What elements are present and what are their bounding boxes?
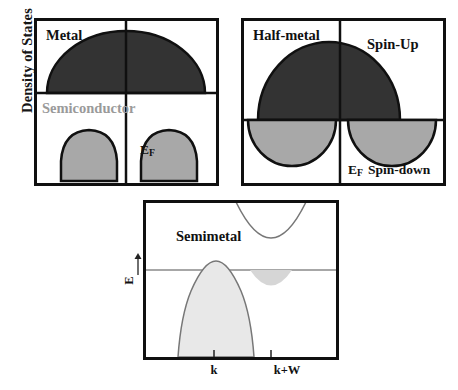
energy-axis-arrow-icon: [133, 252, 143, 276]
fermi-level-spin-down-label: EFSpin-down: [348, 163, 430, 177]
y-axis-title: Density of States: [19, 0, 36, 136]
half-metal-label: Half-metal: [253, 28, 320, 43]
semimetal-label: Semimetal: [176, 229, 241, 244]
metal-semiconductor-panel: Metal Semiconductor EF: [34, 18, 219, 186]
semiconductor-label: Semiconductor: [42, 101, 135, 116]
spin-down-dos-right: [348, 120, 436, 166]
x-tick-label-k-plus-w: k+W: [265, 363, 309, 378]
fermi-level-symbol: E: [140, 142, 149, 157]
semiconductor-valence-band-left: [61, 130, 117, 181]
semimetal-y-axis-label: E: [122, 276, 137, 284]
semimetal-panel: Semimetal: [143, 200, 339, 360]
metal-label: Metal: [46, 28, 82, 43]
conduction-band-overlap-fill: [250, 270, 292, 286]
half-metal-panel: Half-metal Spin-Up EFSpin-down: [241, 18, 446, 186]
fermi-level-label-left: EF: [140, 143, 155, 157]
fermi-level-subscript: F: [357, 167, 363, 178]
fermi-level-subscript: F: [149, 147, 155, 158]
spin-down-dos-left: [248, 120, 336, 166]
fermi-level-symbol: E: [348, 162, 357, 177]
valence-band-curve: [178, 261, 254, 357]
semimetal-band-plot: [146, 203, 336, 357]
x-tick-label-k: k: [202, 363, 226, 378]
spin-down-label: Spin-down: [368, 162, 430, 177]
figure-root: Density of States Metal Semiconductor EF: [0, 0, 458, 390]
spin-up-label: Spin-Up: [367, 37, 419, 52]
spin-up-dos-curve: [258, 42, 400, 120]
